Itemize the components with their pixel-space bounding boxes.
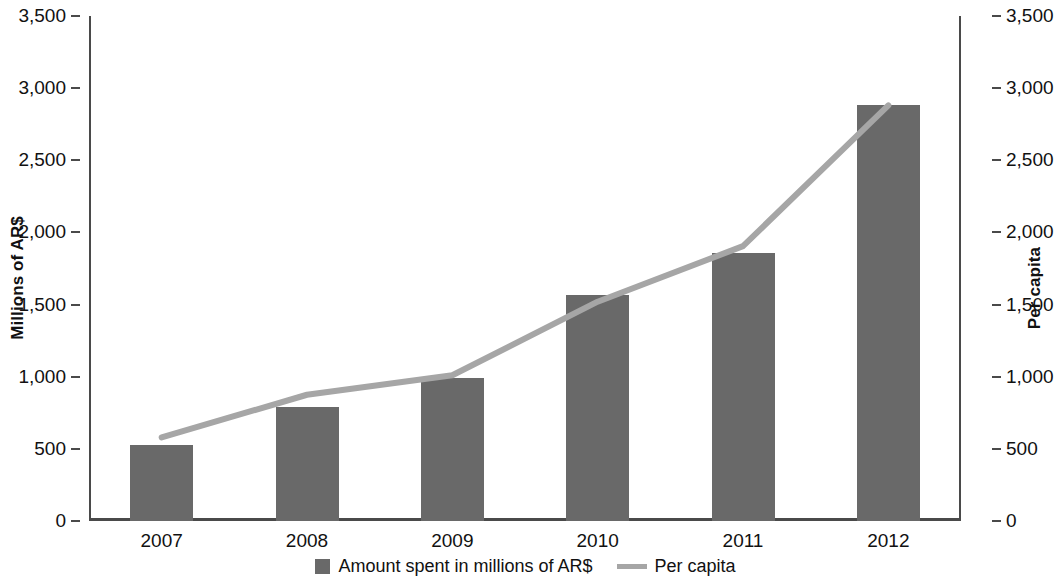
x-axis-label-2011: 2011 bbox=[683, 530, 803, 552]
legend-item-per-capita: Per capita bbox=[617, 556, 736, 577]
y-axis-left-tick-label: 3,000 bbox=[18, 78, 66, 97]
y-axis-right-tick-label: 1,000 bbox=[1006, 367, 1054, 386]
y-axis-right-tick-mark bbox=[992, 159, 1001, 161]
x-axis-label-2010: 2010 bbox=[538, 530, 658, 552]
y-axis-left-ticks: 3,5003,0002,5002,0001,5001,0005000 bbox=[2, 0, 80, 581]
legend-label-per-capita: Per capita bbox=[655, 556, 736, 577]
square-swatch-icon bbox=[315, 559, 330, 574]
y-axis-left-tick-mark bbox=[71, 304, 80, 306]
x-axis-label-2008: 2008 bbox=[247, 530, 367, 552]
per-capita-line bbox=[162, 105, 889, 437]
x-axis-label-2009: 2009 bbox=[392, 530, 512, 552]
y-axis-left-tick-label: 3,500 bbox=[18, 6, 66, 25]
y-axis-right-tick-mark bbox=[992, 231, 1001, 233]
y-axis-left-tick-label: 2,000 bbox=[18, 222, 66, 241]
y-axis-right-tick-mark bbox=[992, 448, 1001, 450]
y-axis-right-tick-label: 0 bbox=[1006, 511, 1017, 530]
y-axis-left-tick-label: 1,000 bbox=[18, 367, 66, 386]
y-axis-right-tick-label: 1,500 bbox=[1006, 295, 1054, 314]
y-axis-right-tick-mark bbox=[992, 15, 1001, 17]
y-axis-left-tick-mark bbox=[71, 231, 80, 233]
y-axis-left-tick-label: 500 bbox=[34, 439, 66, 458]
y-axis-right-tick-mark bbox=[992, 520, 1001, 522]
y-axis-left-tick-mark bbox=[71, 520, 80, 522]
legend-label-amount-spent: Amount spent in millions of AR$ bbox=[338, 556, 592, 577]
chart-legend: Amount spent in millions of AR$ Per capi… bbox=[0, 556, 1051, 577]
y-axis-left-tick-mark bbox=[71, 87, 80, 89]
line-series-layer bbox=[89, 16, 961, 521]
y-axis-left-tick-label: 0 bbox=[55, 511, 66, 530]
plot-area bbox=[89, 16, 961, 521]
y-axis-right-tick-label: 2,000 bbox=[1006, 222, 1054, 241]
y-axis-right-tick-mark bbox=[992, 376, 1001, 378]
y-axis-left-tick-mark bbox=[71, 15, 80, 17]
y-axis-right-tick-label: 3,500 bbox=[1006, 6, 1054, 25]
y-axis-left-tick-label: 2,500 bbox=[18, 150, 66, 169]
y-axis-right-tick-label: 3,000 bbox=[1006, 78, 1054, 97]
y-axis-right-tick-label: 500 bbox=[1006, 439, 1038, 458]
y-axis-right-tick-mark bbox=[992, 304, 1001, 306]
y-axis-left-tick-mark bbox=[71, 159, 80, 161]
x-axis-label-2012: 2012 bbox=[828, 530, 948, 552]
y-axis-right-tick-mark bbox=[992, 87, 1001, 89]
y-axis-right-tick-label: 2,500 bbox=[1006, 150, 1054, 169]
y-axis-right-ticks: 3,5003,0002,5002,0001,5001,0005000 bbox=[992, 0, 1058, 581]
y-axis-left-tick-mark bbox=[71, 448, 80, 450]
y-axis-left-tick-mark bbox=[71, 376, 80, 378]
x-axis-labels: 200720082009201020112012 bbox=[89, 530, 961, 558]
y-axis-left-tick-label: 1,500 bbox=[18, 295, 66, 314]
legend-item-amount-spent: Amount spent in millions of AR$ bbox=[315, 556, 592, 577]
line-swatch-icon bbox=[617, 564, 647, 569]
x-axis-label-2007: 2007 bbox=[102, 530, 222, 552]
